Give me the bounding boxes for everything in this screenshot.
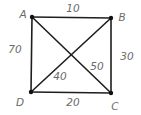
weight-a-b: 10 [66,2,80,14]
node-a [30,15,34,19]
node-label-c: C [111,100,119,112]
edges [31,17,111,93]
weight-a-c: 50 [90,60,104,72]
node-label-b: B [118,11,125,23]
weight-a-d: 70 [8,43,22,55]
weighted-graph-diagram: A B C D 10 30 20 70 50 40 [0,0,141,115]
node-d [29,90,33,94]
node-label-d: D [16,96,24,108]
node-b [109,16,113,20]
weight-d-c: 20 [66,96,80,108]
edge-a-d [31,17,32,92]
node-c [109,91,113,95]
weight-d-b: 40 [53,70,67,82]
node-label-a: A [18,8,26,20]
edge-a-b [32,17,111,18]
weight-b-c: 30 [120,50,134,62]
edge-d-c [31,92,111,93]
